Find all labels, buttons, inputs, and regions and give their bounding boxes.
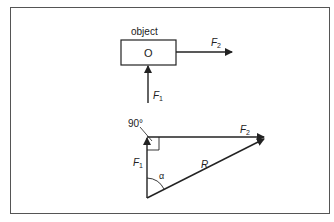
- angle-90-label: 90°: [128, 119, 143, 129]
- f2-label-triangle: F2: [240, 125, 250, 136]
- alpha-label: α: [159, 172, 164, 181]
- object-label: object: [131, 27, 158, 37]
- force-diagram: [0, 0, 334, 222]
- box-label: O: [144, 48, 153, 59]
- angle-leader: [140, 127, 152, 141]
- right-angle-mark: [147, 137, 159, 150]
- resultant-label: R: [201, 160, 208, 170]
- f1-label-top: F1: [153, 91, 163, 102]
- f1-label-triangle: F1: [133, 158, 143, 169]
- f2-label-top: F2: [211, 38, 221, 49]
